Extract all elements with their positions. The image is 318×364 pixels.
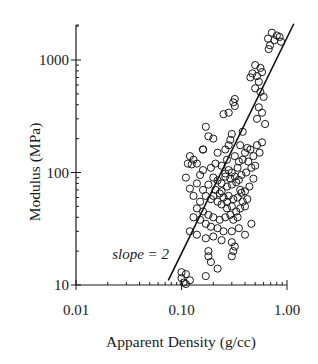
data-point (202, 123, 209, 130)
data-point (210, 233, 217, 240)
x-axis-title: Apparent Density (g/cc) (106, 333, 256, 351)
data-point (193, 231, 200, 238)
y-tick-label: 10 (54, 277, 69, 293)
x-tick-label: 0.10 (168, 302, 194, 318)
data-point (228, 253, 235, 260)
data-point (202, 235, 209, 242)
data-point (230, 248, 237, 255)
fit-line-slope-2 (168, 24, 293, 281)
data-point (199, 146, 206, 153)
data-point (237, 142, 244, 149)
data-point (248, 220, 255, 227)
data-point (252, 85, 259, 92)
data-point (218, 237, 225, 244)
data-point (250, 175, 257, 182)
data-point (197, 198, 204, 205)
data-point (228, 228, 235, 235)
data-point (220, 111, 227, 118)
data-point (186, 185, 193, 192)
data-point (253, 115, 260, 122)
data-point (234, 194, 241, 201)
data-point (225, 109, 232, 116)
slope-annotation: slope = 2 (112, 246, 169, 262)
data-point (262, 120, 269, 127)
x-tick-label: 0.01 (63, 302, 89, 318)
plot-points (178, 29, 285, 288)
data-point (190, 192, 197, 199)
data-point (182, 174, 189, 181)
data-point (207, 164, 214, 171)
x-tick-label: 1.00 (274, 302, 300, 318)
chart: 1010010000.010.101.00 slope = 2 Apparent… (0, 0, 318, 364)
y-axis-title: Modulus (MPa) (26, 123, 44, 222)
y-tick-label: 1000 (39, 52, 69, 68)
data-point (258, 69, 265, 76)
y-tick-label: 100 (47, 165, 70, 181)
axes (76, 25, 287, 285)
data-point (258, 109, 265, 116)
data-point (193, 180, 200, 187)
data-point (255, 104, 262, 111)
data-point (256, 149, 263, 156)
data-point (220, 228, 227, 235)
data-point (202, 273, 209, 280)
data-point (214, 265, 221, 272)
ticks (71, 25, 287, 290)
data-point (246, 183, 253, 190)
data-point (235, 225, 242, 232)
data-point (241, 231, 248, 238)
data-point (214, 149, 221, 156)
